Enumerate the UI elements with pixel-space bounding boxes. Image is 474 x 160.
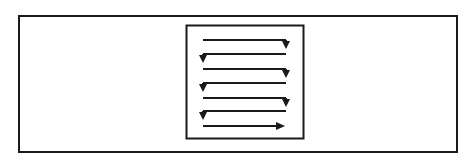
arrow-right-icon xyxy=(276,122,285,130)
raster-scan-diagram xyxy=(0,0,474,160)
arrow-down-icon xyxy=(282,99,290,107)
arrow-down-icon xyxy=(199,55,207,63)
arrow-down-icon xyxy=(282,70,290,78)
arrow-down-icon xyxy=(199,112,207,120)
scan-path xyxy=(199,40,290,130)
arrow-down-icon xyxy=(282,41,290,49)
arrow-down-icon xyxy=(199,84,207,92)
